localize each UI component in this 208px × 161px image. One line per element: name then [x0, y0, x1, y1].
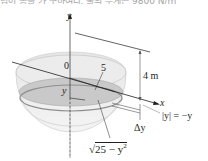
x-axis-label: x: [160, 98, 164, 108]
radius-label: 5: [101, 63, 106, 73]
slice-radius-label: √25 − y2: [89, 141, 127, 154]
top-reference-line: [75, 33, 150, 52]
y-axis-label: y: [67, 11, 71, 21]
distance-label: |y| = −y: [162, 111, 192, 121]
hemisphere-tank-diagram: [0, 0, 208, 161]
origin-label: 0: [64, 61, 69, 71]
depth-label: 4 m: [143, 71, 158, 81]
water-surface: [19, 78, 123, 106]
slice-y-label: y: [62, 86, 66, 96]
x-axis-arrow: [153, 101, 160, 105]
delta-y-label: Δy: [134, 123, 145, 133]
distance-leader: [143, 105, 160, 113]
